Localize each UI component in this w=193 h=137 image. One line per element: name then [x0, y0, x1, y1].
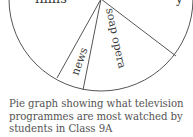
chart-caption: Pie graph showing what television progra… — [9, 98, 193, 136]
label-soap-opera: soap opera — [103, 7, 129, 70]
pie-outline — [9, 0, 193, 91]
label-cropped-slice: y — [175, 0, 183, 6]
pie-chart: films news soap opera y — [0, 0, 193, 98]
label-films: films — [35, 0, 67, 6]
label-news: news — [69, 45, 91, 77]
divider-news-soap — [83, 0, 101, 90]
